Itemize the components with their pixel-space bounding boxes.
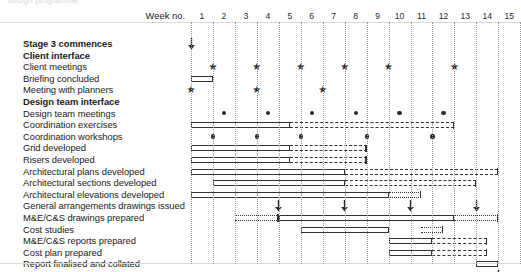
week-number-4: 4 [257,10,279,22]
week-number-15: 15 [498,10,520,22]
gridline-week-9 [367,22,368,264]
week-number-13: 13 [454,10,476,22]
dot-marker-design-team-meetings-0[interactable] [222,111,226,115]
dot-marker-design-team-meetings-5[interactable] [441,111,445,115]
gridline-week-5 [279,22,280,264]
gridline-week-2 [213,22,214,264]
week-number-12: 12 [432,10,454,22]
gantt-bar-architectural-elevations-developed-0[interactable] [191,192,389,198]
gridline-week-14 [476,22,477,264]
gantt-bar-architectural-elevations-developed-1[interactable] [389,192,422,198]
week-number-7: 7 [323,10,345,22]
week-number-10: 10 [389,10,411,22]
gantt-bar-risers-developed-0[interactable] [191,157,290,163]
gridline-week-8 [345,22,346,264]
gantt-bar-coordination-exercises-0[interactable] [191,122,290,128]
gantt-bar-cost-plan-prepared-1[interactable] [432,250,487,256]
header-rule [0,22,521,23]
gantt-bar-coordination-exercises-1[interactable] [290,122,455,128]
week-number-9: 9 [367,10,389,22]
gridline-week-1 [191,22,192,264]
dot-marker-design-team-meetings-1[interactable] [266,111,270,115]
gantt-bar-grid-developed-0[interactable] [191,145,290,151]
gantt-bar-mande-cands-reports-prepared-1[interactable] [432,238,487,244]
gridline-week-3 [235,22,236,264]
dot-marker-design-team-meetings-4[interactable] [397,111,401,115]
week-number-3: 3 [235,10,257,22]
week-number-1: 1 [191,10,213,22]
gantt-chart: design programme Week no. Stage 3 commen… [0,0,521,272]
gridline-week-6 [301,22,302,264]
gridline-week-4 [257,22,258,264]
gantt-bar-architectural-plans-developed-1[interactable] [345,169,499,175]
gantt-bar-architectural-plans-developed-0[interactable] [191,169,345,175]
week-number-14: 14 [476,10,498,22]
gantt-bar-briefing-concluded-0[interactable] [191,76,213,82]
dot-marker-design-team-meetings-2[interactable] [310,111,314,115]
gantt-plot-area: ★★★★★★★★★ [0,0,521,272]
gridline-week-13 [454,22,455,264]
week-number-2: 2 [213,10,235,22]
dot-marker-design-team-meetings-3[interactable] [354,111,358,115]
week-number-11: 11 [411,10,433,22]
gridline-week-15 [498,22,499,264]
gridline-week-7 [323,22,324,264]
gridline-week-12 [432,22,433,264]
gridline-week-11 [411,22,412,264]
gridline-week-10 [389,22,390,264]
week-number-5: 5 [279,10,301,22]
week-number-8: 8 [345,10,367,22]
week-number-6: 6 [301,10,323,22]
footer-rule [0,263,521,264]
